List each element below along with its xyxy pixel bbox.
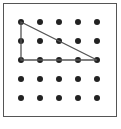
grid-dot bbox=[18, 95, 24, 101]
grid-dot bbox=[37, 19, 43, 25]
grid-dot bbox=[56, 19, 62, 25]
grid-dot bbox=[75, 76, 81, 82]
grid-dot bbox=[94, 76, 100, 82]
geoboard-diagram bbox=[0, 0, 121, 129]
grid-dot bbox=[37, 76, 43, 82]
grid-dot bbox=[75, 38, 81, 44]
grid-dot bbox=[37, 38, 43, 44]
grid-dot bbox=[56, 76, 62, 82]
grid-dot bbox=[75, 95, 81, 101]
grid-dot bbox=[56, 95, 62, 101]
grid-dot bbox=[37, 95, 43, 101]
right-triangle-shape bbox=[21, 22, 97, 60]
grid-dot bbox=[94, 19, 100, 25]
grid-dot bbox=[94, 95, 100, 101]
grid-dot bbox=[18, 76, 24, 82]
grid-dot bbox=[75, 19, 81, 25]
grid-dot bbox=[94, 38, 100, 44]
